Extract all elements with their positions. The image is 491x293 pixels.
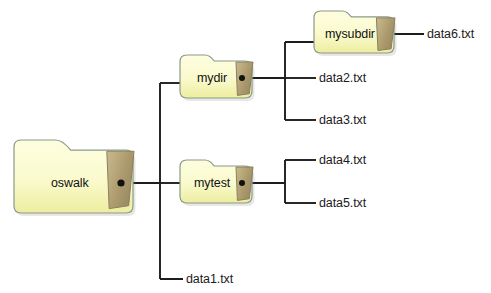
file-label-data5: data5.txt xyxy=(319,197,366,210)
mydir-connector-dot xyxy=(239,75,245,81)
tree-graphics xyxy=(0,0,491,293)
file-label-data2: data2.txt xyxy=(319,72,366,85)
directory-tree-diagram: oswalkmydirmysubdirmytest data6.txtdata2… xyxy=(0,0,491,293)
mytest-connector-dot xyxy=(239,180,245,186)
file-label-data3: data3.txt xyxy=(319,114,366,127)
file-label-data6: data6.txt xyxy=(427,28,474,41)
folder-oswalk[interactable] xyxy=(14,140,136,216)
folder-mysubdir[interactable] xyxy=(314,11,397,56)
file-label-data1: data1.txt xyxy=(186,273,233,286)
oswalk-connector-dot xyxy=(117,179,124,186)
connector-lines xyxy=(121,34,424,279)
file-label-data4: data4.txt xyxy=(319,154,366,167)
